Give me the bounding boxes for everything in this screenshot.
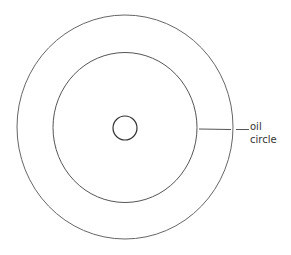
inner-circle <box>113 116 137 140</box>
leader-line-inner <box>199 129 231 130</box>
oil-circle-label-line2: circle <box>250 134 277 146</box>
diagram-canvas <box>0 0 291 255</box>
middle-circle <box>53 53 197 203</box>
oil-circle-label-line1: oil <box>250 121 262 133</box>
outer-circle <box>17 15 233 239</box>
